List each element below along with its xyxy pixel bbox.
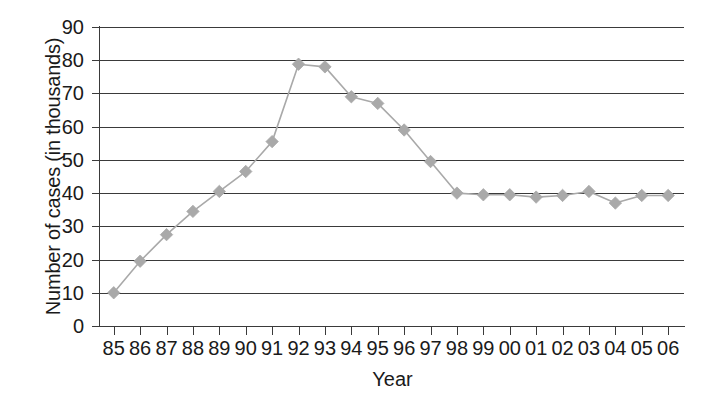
data-point bbox=[530, 191, 542, 203]
data-point bbox=[504, 189, 516, 201]
series-line bbox=[114, 64, 668, 293]
data-point bbox=[609, 197, 621, 209]
data-point bbox=[583, 185, 595, 197]
line-chart: Number of cases (in thousands) Year 0102… bbox=[0, 0, 725, 411]
data-point bbox=[662, 189, 674, 201]
data-point bbox=[556, 189, 568, 201]
data-point bbox=[292, 58, 304, 70]
series-markers bbox=[108, 58, 675, 299]
data-point bbox=[477, 189, 489, 201]
data-series-layer bbox=[0, 0, 725, 411]
data-point bbox=[636, 189, 648, 201]
data-point bbox=[213, 185, 225, 197]
